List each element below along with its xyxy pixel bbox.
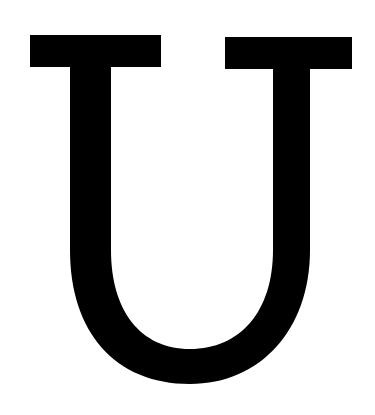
right-serif (225, 37, 352, 69)
u-bowl (70, 66, 310, 384)
u-glyph-drawing (0, 0, 375, 415)
left-serif (30, 35, 161, 67)
letter-u-glyph: U (0, 0, 375, 415)
